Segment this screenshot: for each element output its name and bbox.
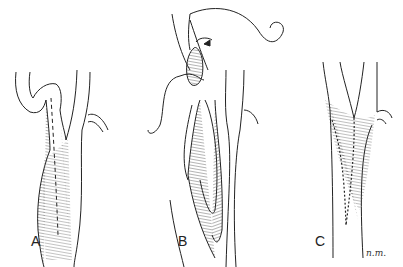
panel-label-b: B: [178, 233, 187, 249]
panel-b-artery: [148, 9, 283, 267]
panel-label-c: C: [315, 233, 325, 249]
panel-label-a: A: [31, 233, 40, 249]
artist-signature: n.m.: [366, 248, 386, 258]
illustration: [0, 0, 403, 267]
